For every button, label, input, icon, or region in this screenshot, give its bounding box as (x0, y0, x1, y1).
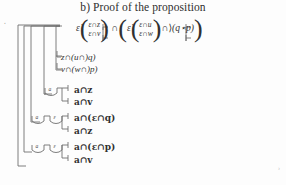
label-eps-1: ε (54, 114, 57, 120)
proof-row-av2: a∩v (74, 155, 93, 165)
left-branch-bottom: ε∩v (88, 29, 100, 38)
label-a-1: a (49, 86, 52, 92)
open-paren-2: ( (118, 14, 127, 43)
proof-row-v: v∩(w∩)p) (61, 64, 98, 74)
tail-connective: ∩⟩ (162, 23, 173, 33)
main-formula-row: ε̇(ε∩zε∩v) ∩(ε̇(ε∩uε∩w)∩⟩(q⋆p)) (76, 20, 203, 39)
proof-row-aeq: a∩(ε∩q) (74, 113, 115, 123)
label-a-2: a (36, 114, 39, 120)
close-paren-3: ) (153, 14, 162, 43)
tail-term: (q⋆p) (172, 23, 194, 33)
proof-figure-page: b) Proof of the proposition ‘ › (0, 0, 286, 185)
bracket-level-4 (44, 26, 60, 94)
proof-row-av: a∩v (74, 97, 93, 107)
left-branch-top: ε∩z (88, 20, 100, 29)
right-branch-top: ε∩u (139, 20, 153, 29)
close-paren-1: ) (100, 14, 109, 43)
label-a-3: a (36, 143, 39, 149)
right-branch-bottom: ε∩w (139, 29, 153, 38)
label-eps-2: ε (54, 143, 57, 149)
proof-row-aep: a∩(ε∩p) (74, 142, 115, 152)
proof-row-z: z∩(u∩)q) (61, 52, 96, 62)
right-branch-stack: ε∩uε∩w (139, 20, 153, 39)
proof-row-az: a∩z (74, 85, 92, 95)
bracket-level-2 (24, 26, 60, 152)
close-paren-2: ) (194, 14, 203, 43)
open-paren-3: ( (131, 14, 140, 43)
proof-row-az2: a∩z (74, 126, 92, 136)
open-paren-1: ( (80, 14, 89, 43)
left-branch-stack: ε∩zε∩v (88, 20, 100, 39)
